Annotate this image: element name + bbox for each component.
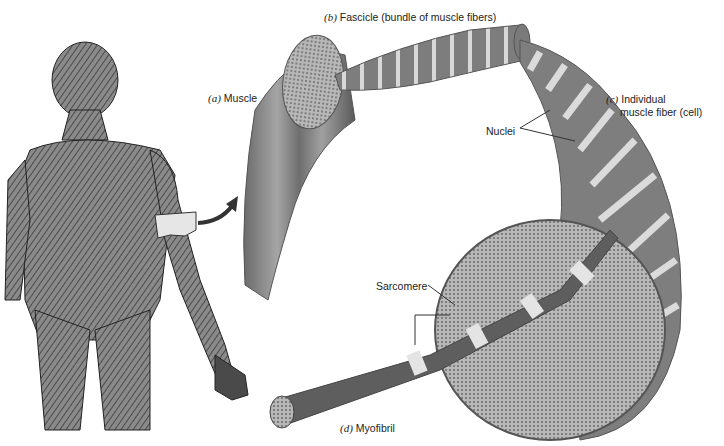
- label-myofibril-letter: (d): [340, 422, 353, 434]
- label-muscle-fiber-line1: Individual: [621, 93, 665, 105]
- label-muscle-fiber-line2: muscle fiber (cell): [620, 106, 702, 118]
- muscle-illustration: [244, 31, 355, 300]
- label-myofibril-text: Myofibril: [356, 422, 395, 434]
- label-nuclei: Nuclei: [486, 125, 515, 138]
- label-myofibril: (d)Myofibril: [340, 422, 395, 435]
- fascicle-illustration: [335, 24, 530, 90]
- label-muscle: (a)Muscle: [208, 92, 257, 105]
- label-sarcomere: Sarcomere: [376, 280, 427, 293]
- label-muscle-letter: (a): [208, 92, 221, 104]
- label-muscle-text: Muscle: [224, 92, 257, 104]
- diagram-artwork: [0, 0, 724, 446]
- label-fascicle-letter: (b): [324, 11, 337, 23]
- label-nuclei-text: Nuclei: [486, 125, 515, 137]
- label-sarcomere-text: Sarcomere: [376, 280, 427, 292]
- label-fascicle: (b)Fascicle (bundle of muscle fibers): [324, 11, 496, 24]
- label-muscle-fiber-letter: (c): [606, 93, 618, 105]
- label-muscle-fiber: (c)Individual muscle fiber (cell): [606, 93, 702, 119]
- muscle-structure-diagram: (a)Muscle (b)Fascicle (bundle of muscle …: [0, 0, 724, 446]
- label-fascicle-text: Fascicle (bundle of muscle fibers): [340, 11, 496, 23]
